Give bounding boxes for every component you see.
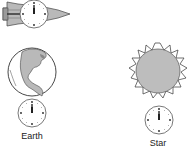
star-clock-icon [145, 106, 173, 134]
star-label: Star [138, 138, 178, 148]
rocket-icon [3, 0, 70, 28]
earth-label: Earth [12, 131, 52, 141]
earth-globe-icon [8, 48, 56, 96]
earth-clock-icon [18, 99, 46, 127]
star-sun-icon [129, 43, 187, 98]
rocket-clock-icon [20, 0, 48, 28]
